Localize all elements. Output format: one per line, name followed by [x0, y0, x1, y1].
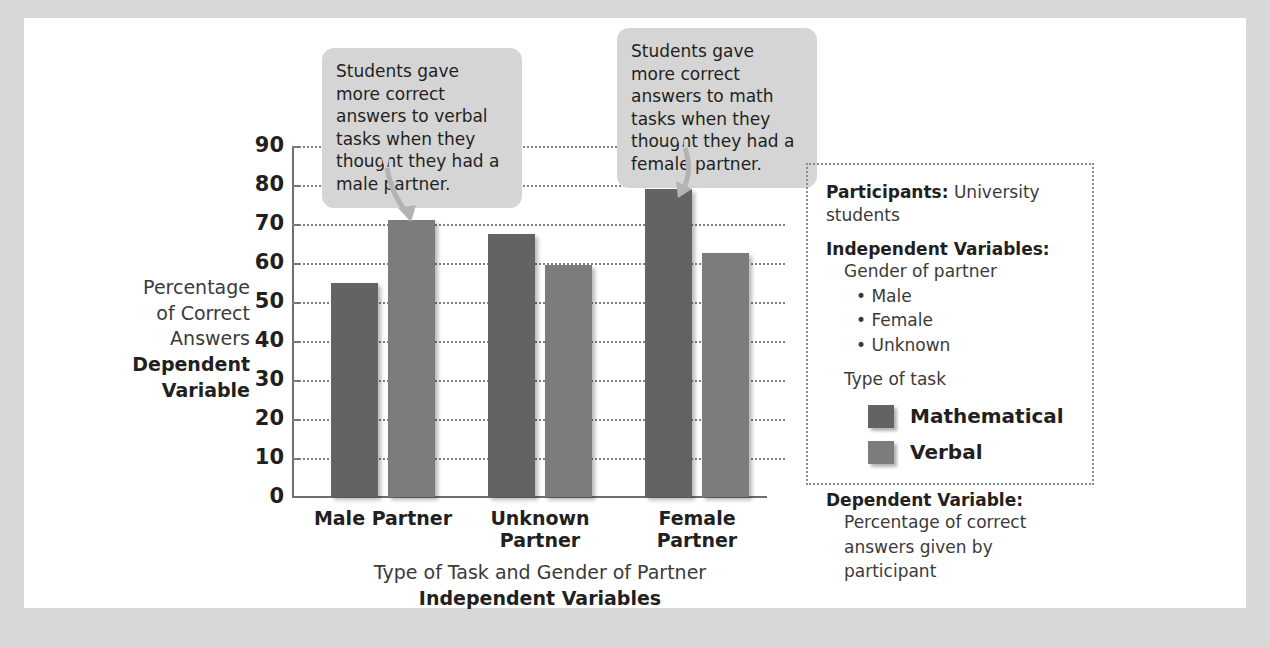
callout-1-arrow-line-icon: [387, 168, 406, 212]
annotation-overlay: [0, 0, 1270, 647]
callout-2-arrow-line-icon: [684, 148, 689, 188]
callout-2-tail-icon: [672, 126, 686, 150]
callout-1-tail-icon: [378, 146, 392, 172]
callout-1-arrow-head-icon: [398, 205, 416, 222]
